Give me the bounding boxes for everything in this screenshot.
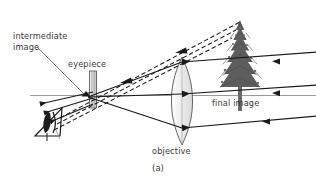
optics-figure: intermediate image eyepiece final image … — [0, 0, 316, 184]
label-final-image: final image — [212, 98, 259, 109]
label-objective: objective — [152, 146, 191, 157]
observer-eye-icon — [35, 108, 62, 141]
leader-line-intermediate-image — [37, 47, 86, 96]
label-intermediate-image: intermediate image — [13, 31, 83, 52]
incoming-rays — [182, 52, 316, 128]
incoming-ray-midpoint-arrows — [262, 59, 280, 125]
eyepiece-lens — [90, 71, 97, 108]
label-eyepiece: eyepiece — [68, 59, 106, 70]
objective-lens — [172, 57, 193, 145]
figure-caption: (a) — [0, 163, 316, 173]
